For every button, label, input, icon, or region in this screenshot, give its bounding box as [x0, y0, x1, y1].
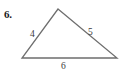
- side-label-left: 4: [30, 30, 35, 40]
- side-label-right: 5: [88, 28, 93, 38]
- triangle-outline: [22, 9, 117, 58]
- side-label-base: 6: [61, 62, 66, 72]
- triangle-figure: 6. 4 5 6: [0, 0, 125, 77]
